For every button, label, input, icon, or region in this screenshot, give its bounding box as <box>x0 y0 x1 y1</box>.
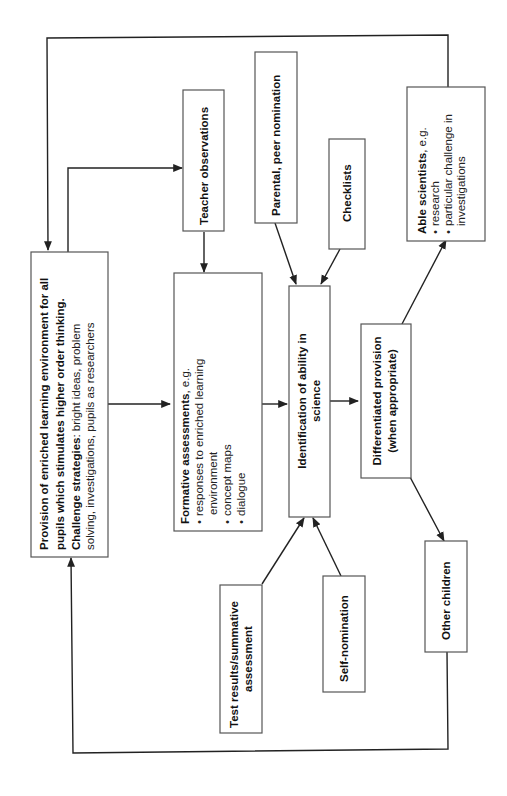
connector-parental-to-identification <box>275 223 296 284</box>
able-bullet-3: investigations <box>455 156 467 226</box>
provision-line-2: pupils which stimulates higher order thi… <box>54 298 66 550</box>
connector-differentiated-to-able <box>402 240 446 324</box>
differentiated-line-2: (when appropriate) <box>386 349 398 453</box>
able-bullet-1: research <box>429 181 441 226</box>
connector-checklists-to-identification <box>321 249 340 284</box>
able-scientists-title: Able scientists <box>416 153 428 234</box>
bullet-icon: • <box>429 230 441 234</box>
test-results-box: Test results/summative assessment <box>220 585 262 733</box>
formative-bullet-1: responses to enriched learning <box>193 359 205 516</box>
svg-text:Provision of enriched learning: Provision of enriched learning environme… <box>38 278 50 550</box>
connector-provision-to-teacher <box>68 168 182 252</box>
other-children-label: Other children <box>440 561 452 640</box>
teacher-observations-label: Teacher observations <box>198 107 210 225</box>
svg-text:pupils which stimulates higher: pupils which stimulates higher order thi… <box>54 298 66 550</box>
differentiated-provision-box: Differentiated provision (when appropria… <box>361 324 411 478</box>
svg-text:•responses to enriched learnin: •responses to enriched learning <box>193 359 205 524</box>
self-nomination-box: Self-nomination <box>323 576 365 692</box>
formative-bullet-1-cont: environment <box>207 451 219 515</box>
svg-text:solving, investigations, pupil: solving, investigations, pupils as resea… <box>84 322 96 550</box>
connector-test-to-identification <box>262 518 304 584</box>
provision-line-1: Provision of enriched learning environme… <box>38 278 50 550</box>
formative-title: Formative assessments <box>179 394 191 524</box>
formative-bullet-2: concept maps <box>221 444 233 516</box>
connector-differentiated-to-other <box>410 477 444 541</box>
parental-nomination-label: Parental, peer nomination <box>270 75 282 216</box>
test-results-line-1: Test results/summative <box>228 601 240 728</box>
formative-eg: , e.g. <box>179 368 191 394</box>
svg-text:•concept maps: •concept maps <box>221 444 233 524</box>
checklists-box: Checklists <box>329 139 365 249</box>
svg-text:•research: •research <box>429 181 441 234</box>
identification-line-2: science <box>310 380 322 422</box>
challenge-strategies-text: : bright ideas, problem <box>70 324 82 438</box>
flowchart: Provision of enriched learning environme… <box>0 0 507 796</box>
formative-assessments-box: Formative assessments, e.g. •responses t… <box>174 273 262 531</box>
connector-self-to-identification <box>313 518 341 576</box>
bullet-icon: • <box>235 520 247 524</box>
bullet-icon: • <box>193 520 205 524</box>
identification-line-1: Identification of ability in <box>296 333 308 468</box>
svg-text:Able scientists, e.g.: Able scientists, e.g. <box>416 127 428 234</box>
checklists-label: Checklists <box>341 164 353 222</box>
challenge-strategies-label: Challenge strategies <box>70 438 82 550</box>
svg-text:•particular challenge in: •particular challenge in <box>442 114 454 234</box>
svg-text:Formative assessments, e.g.: Formative assessments, e.g. <box>179 368 191 524</box>
parental-nomination-box: Parental, peer nomination <box>255 52 297 223</box>
identification-box: Identification of ability in science <box>289 286 330 517</box>
teacher-observations-box: Teacher observations <box>183 90 224 231</box>
provision-line-4: solving, investigations, pupils as resea… <box>84 322 96 550</box>
able-bullet-2: particular challenge in <box>442 114 454 226</box>
formative-bullet-3: dialogue <box>235 472 247 515</box>
differentiated-line-1: Differentiated provision <box>371 336 383 465</box>
self-nomination-label: Self-nomination <box>338 595 350 682</box>
svg-text:investigations: investigations <box>455 156 467 226</box>
other-children-box: Other children <box>425 541 467 652</box>
able-scientists-eg: , e.g. <box>416 127 428 153</box>
bullet-icon: • <box>221 520 233 524</box>
able-scientists-box: Able scientists, e.g. •research •particu… <box>407 87 485 241</box>
svg-text:•dialogue: •dialogue <box>235 472 247 524</box>
svg-text:Challenge strategies: bright i: Challenge strategies: bright ideas, prob… <box>70 324 82 550</box>
provision-box: Provision of enriched learning environme… <box>31 252 108 557</box>
svg-text:environment: environment <box>207 451 219 515</box>
feedback-connector-top <box>47 35 448 250</box>
bullet-icon: • <box>442 230 454 234</box>
test-results-line-2: assessment <box>242 626 254 692</box>
